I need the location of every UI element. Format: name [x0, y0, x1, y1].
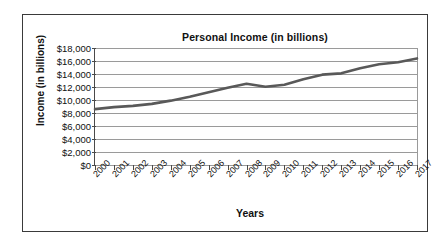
y-tick-label: $6,000: [25, 121, 91, 132]
y-axis-tick-labels: $18,000$16,000$14,000$12,000$10,000$8,00…: [23, 48, 91, 165]
y-tick-label: $18,000: [25, 43, 91, 54]
y-tick-label: $2,000: [25, 147, 91, 158]
y-tick-label: $4,000: [25, 134, 91, 145]
chart-title: Personal Income (in billions): [23, 31, 429, 43]
y-tick-label: $16,000: [25, 56, 91, 67]
series-line-chart: [95, 48, 417, 165]
chart-screenshot: Personal Income (in billions) Income (in…: [0, 0, 445, 244]
plot-right-edge: [417, 48, 418, 165]
y-tick-label: $14,000: [25, 69, 91, 80]
chart-frame: Personal Income (in billions) Income (in…: [22, 14, 428, 232]
y-tick-label: $10,000: [25, 95, 91, 106]
series-polyline: [95, 58, 417, 109]
y-tick-label: $8,000: [25, 108, 91, 119]
plot-area: 2000200120022003200420052006200720082009…: [95, 48, 417, 164]
y-tick-label: $0: [25, 160, 91, 171]
x-axis-title: Years: [23, 207, 429, 219]
y-tick-label: $12,000: [25, 82, 91, 93]
